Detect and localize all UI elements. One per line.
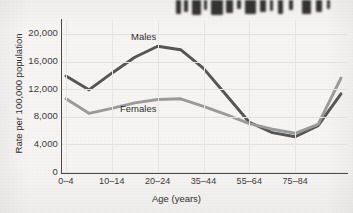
x-tick-label: 55–64 — [237, 176, 263, 186]
y-tick-label: 20,000 — [2, 27, 58, 38]
gridline-vertical — [112, 20, 113, 172]
gridline-horizontal — [62, 89, 347, 90]
gridline-vertical — [66, 20, 67, 172]
x-tick-label: 75–84 — [282, 176, 308, 186]
gridline-horizontal — [62, 34, 347, 35]
x-tick-label: 10–14 — [99, 176, 125, 186]
plot-area — [62, 20, 347, 172]
gridline-horizontal — [62, 62, 347, 63]
x-tick-label: 35–44 — [191, 176, 217, 186]
x-tick-label: 0–4 — [58, 176, 73, 186]
gridline-horizontal — [62, 117, 347, 118]
y-tick-label: 8,000 — [2, 110, 58, 121]
series-lines — [62, 20, 347, 172]
y-tick-label: 12,000 — [2, 83, 58, 94]
y-tick-label: 0 — [2, 166, 58, 177]
series-label-males: Males — [131, 31, 156, 42]
x-axis-line — [61, 173, 348, 174]
gridline-vertical — [158, 20, 159, 172]
y-axis-line — [61, 19, 62, 174]
gridline-horizontal — [62, 144, 347, 145]
y-axis-title: Rate per 100,000 population — [13, 24, 24, 164]
line-chart: 04,0008,00012,00016,00020,000 0–410–1420… — [0, 0, 353, 213]
gridline-vertical — [204, 20, 205, 172]
y-tick-label: 16,000 — [2, 55, 58, 66]
y-tick-label: 4,000 — [2, 138, 58, 149]
gridline-vertical — [249, 20, 250, 172]
x-axis-ticks: 0–410–1420–2435–4455–6475–84 — [0, 176, 353, 190]
x-tick-label: 20–24 — [145, 176, 171, 186]
gridline-vertical — [295, 20, 296, 172]
x-axis-title: Age (years) — [0, 193, 353, 204]
series-label-females: Females — [120, 103, 156, 114]
